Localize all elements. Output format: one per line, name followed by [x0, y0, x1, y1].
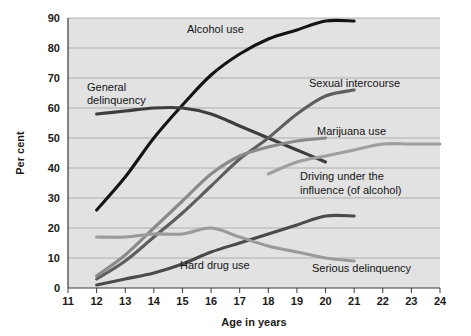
x-tick-label-16: 16	[205, 295, 217, 307]
plot-area-background	[68, 18, 440, 288]
annotation-influence-of-alcohol: influence (of alcohol)	[300, 184, 402, 196]
y-tick-label-60: 60	[48, 102, 60, 114]
annotation-hard-drug-use: Hard drug use	[180, 259, 250, 271]
annotation-sexual-intercourse: Sexual intercourse	[309, 77, 400, 89]
annotation-driving-under-the: Driving under the	[300, 170, 384, 182]
x-tick-label-18: 18	[262, 295, 274, 307]
x-tick-label-17: 17	[234, 295, 246, 307]
x-tick-label-15: 15	[176, 295, 188, 307]
line-chart: 1112131415161718192021222324 01020304050…	[0, 0, 471, 336]
y-axis-ticks: 0102030405060708090	[48, 12, 60, 294]
y-tick-label-20: 20	[48, 222, 60, 234]
y-axis-title: Per cent	[14, 131, 26, 175]
x-tick-label-19: 19	[291, 295, 303, 307]
y-tick-label-90: 90	[48, 12, 60, 24]
annotation-marijuana-use: Marijuana use	[317, 125, 386, 137]
y-tick-label-40: 40	[48, 162, 60, 174]
x-tick-label-21: 21	[348, 295, 360, 307]
annotation-serious-delinquency: Serious delinquency	[312, 262, 412, 274]
x-tick-label-11: 11	[62, 295, 74, 307]
y-tick-label-0: 0	[54, 282, 60, 294]
chart-container: 1112131415161718192021222324 01020304050…	[0, 0, 471, 336]
x-axis-ticks: 1112131415161718192021222324	[62, 288, 447, 307]
x-tick-label-13: 13	[119, 295, 131, 307]
x-tick-label-20: 20	[319, 295, 331, 307]
y-tick-label-70: 70	[48, 72, 60, 84]
x-tick-label-14: 14	[148, 295, 161, 307]
x-tick-label-24: 24	[434, 295, 447, 307]
annotation-delinquency: delinquency	[87, 94, 146, 106]
y-tick-label-30: 30	[48, 192, 60, 204]
y-tick-label-50: 50	[48, 132, 60, 144]
y-tick-label-80: 80	[48, 42, 60, 54]
annotation-alcohol-use: Alcohol use	[187, 23, 244, 35]
annotation-general: General	[87, 81, 126, 93]
x-tick-label-12: 12	[90, 295, 102, 307]
x-axis-title: Age in years	[221, 316, 286, 328]
y-tick-label-10: 10	[48, 252, 60, 264]
x-tick-label-22: 22	[377, 295, 389, 307]
x-tick-label-23: 23	[405, 295, 417, 307]
